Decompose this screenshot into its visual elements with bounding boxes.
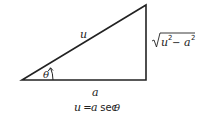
svg-text:2: 2 bbox=[191, 34, 195, 42]
svg-text:a: a bbox=[184, 36, 191, 49]
adjacent-label: a bbox=[92, 86, 99, 99]
svg-text:−: − bbox=[172, 37, 180, 48]
svg-text:θ: θ bbox=[114, 102, 120, 113]
triangle-diagram: u θ a u 2 − a 2 u = a sec θ bbox=[0, 0, 206, 120]
caption: u = a sec θ bbox=[74, 101, 120, 114]
hypotenuse-label: u bbox=[80, 28, 87, 41]
angle-label: θ bbox=[43, 69, 49, 80]
right-triangle bbox=[22, 5, 146, 80]
opposite-label: u 2 − a 2 bbox=[152, 33, 195, 49]
